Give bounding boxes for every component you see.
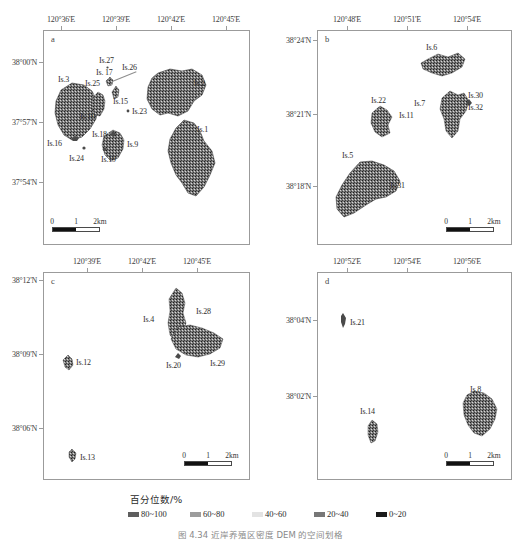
legend-item-60-80: 60~80 (190, 509, 252, 519)
ytick-c-0 (39, 280, 43, 281)
scalebar-seg-dark (447, 228, 470, 231)
scalebar-bar (446, 227, 494, 232)
island-shape-is12 (62, 355, 74, 371)
island-label-is7: Is.7 (414, 99, 425, 108)
ylabel-b-1: 38°21'N (269, 110, 311, 119)
xtick-b-1 (407, 26, 408, 30)
island-shape-is13 (68, 449, 77, 463)
ylabel-d-1: 38°02'N (269, 392, 311, 401)
scalebar-seg-light (470, 228, 493, 231)
island-label-is15: Is.15 (113, 97, 128, 106)
island-label-is26: Is.26 (122, 63, 137, 72)
scalebar-bar (184, 461, 232, 466)
xtick-b-2 (467, 26, 468, 30)
scalebar-tick-1: 1 (468, 451, 472, 460)
legend-item-0-20: 0~20 (376, 509, 406, 519)
island-label-is16: Is.16 (47, 139, 62, 148)
ylabel-c-0: 38°12'N (0, 276, 37, 285)
scalebar-seg-dark (447, 462, 470, 465)
island-label-is19: Is.19 (101, 155, 116, 164)
panel-c-frame: c (43, 272, 250, 480)
legend-label-60-80: 60~80 (203, 509, 225, 519)
xtick-c-2 (197, 268, 198, 272)
island-label-is24: Is.24 (69, 154, 84, 163)
scalebar-panel-b: 0 1 2km (446, 217, 494, 232)
scalebar-tick-2: 2km (487, 217, 500, 226)
xtick-c-1 (142, 268, 143, 272)
island-shape-is21 (340, 313, 347, 329)
ylabel-a-1: 37°57'N (0, 118, 37, 127)
xlabel-b-0: 120°48'E (333, 15, 361, 24)
scalebar-tick-0: 0 (444, 451, 448, 460)
island-label-is27: Is.27 (99, 56, 114, 65)
scalebar-tick-0: 0 (182, 451, 186, 460)
island-shape-is24 (82, 146, 86, 150)
ylabel-c-2: 38°06'N (0, 424, 37, 433)
panel-a: a (43, 30, 250, 245)
xtick-a-0 (61, 26, 62, 30)
island-label-is21: Is.21 (350, 318, 365, 327)
xtick-c-0 (87, 268, 88, 272)
panel-d-frame: d Is.21 Is.8 Is.14 0 (317, 272, 512, 480)
legend-label-20-40: 20~40 (327, 509, 349, 519)
legend-title: 百分位数/% (130, 492, 418, 506)
legend-label-80-100: 80~100 (141, 509, 167, 519)
scalebar-bar (52, 227, 100, 232)
scalebar-tick-2: 2km (487, 451, 500, 460)
island-label-is20: Is.20 (166, 361, 181, 370)
xlabel-d-0: 120°52'E (333, 257, 361, 266)
panel-d-letter: d (325, 276, 329, 286)
xtick-b-0 (347, 26, 348, 30)
leader-line-is26 (112, 71, 136, 82)
ytick-d-0 (313, 320, 317, 321)
island-label-is13: Is.13 (80, 453, 95, 462)
island-shape-is22 (368, 105, 394, 139)
ylabel-b-0: 38°24'N (269, 36, 311, 45)
xlabel-b-2: 120°54'E (453, 15, 481, 24)
island-label-is30: Is.30 (468, 91, 483, 100)
xlabel-c-0: 120°39'E (73, 257, 101, 266)
legend-swatch-40-60 (252, 512, 263, 517)
xtick-d-0 (347, 268, 348, 272)
island-label-is25: Is.25 (85, 79, 100, 88)
ytick-a-1 (39, 122, 43, 123)
xtick-d-2 (467, 268, 468, 272)
scalebar-panel-a: 0 1 2km (52, 217, 100, 232)
panel-c-letter: c (51, 276, 55, 286)
island-label-is8: Is.8 (470, 385, 481, 394)
scalebar-seg-light (470, 462, 493, 465)
xlabel-d-1: 120°54'E (393, 257, 421, 266)
scalebar-seg-light (208, 462, 231, 465)
island-shape-is18 (110, 131, 116, 138)
scalebar-panel-d: 0 1 2km (446, 451, 494, 466)
island-label-is17: Is. 17 (96, 68, 113, 77)
xlabel-c-1: 120°42'E (128, 257, 156, 266)
island-shape-is5 (332, 159, 404, 221)
island-label-is14: Is.14 (360, 407, 375, 416)
ytick-c-1 (39, 354, 43, 355)
scalebar-bar (446, 461, 494, 466)
scalebar-tick-2: 2km (93, 217, 106, 226)
panel-b: b (317, 30, 512, 245)
island-shape-is8 (458, 389, 500, 439)
ytick-d-1 (313, 396, 317, 397)
island-label-is32: Is.32 (468, 103, 483, 112)
legend-label-40-60: 40~60 (265, 509, 287, 519)
island-label-is6: Is.6 (426, 43, 437, 52)
xlabel-d-2: 120°56'E (453, 257, 481, 266)
island-label-is18: Is.18 (92, 130, 107, 139)
scalebar-tick-1: 1 (74, 217, 78, 226)
xlabel-a-0: 120°36'E (47, 15, 75, 24)
scalebar-tick-1: 1 (206, 451, 210, 460)
ytick-b-1 (313, 114, 317, 115)
island-label-is9: Is.9 (127, 140, 138, 149)
xlabel-a-2: 120°42'E (157, 15, 185, 24)
legend-item-40-60: 40~60 (252, 509, 314, 519)
scalebar-seg-dark (53, 228, 76, 231)
island-label-is12: Is.12 (76, 358, 91, 367)
legend-swatch-60-80 (190, 512, 201, 517)
island-label-is29: Is.29 (210, 359, 225, 368)
scalebar-tick-0: 0 (50, 217, 54, 226)
scalebar-tick-2: 2km (225, 451, 238, 460)
